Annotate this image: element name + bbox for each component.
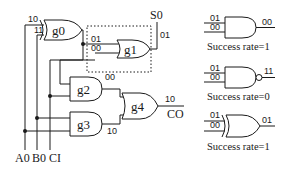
inversion-bubble [256, 75, 262, 81]
g0-input-a-value: 10 [28, 14, 38, 24]
gate-label-g3: g3 [77, 117, 90, 132]
output-s0-label: S0 [150, 8, 163, 22]
candidate-xor: 01 00 01 Success rate=1 [204, 110, 275, 152]
g0-input-b-value: 11 [34, 25, 43, 35]
g3-output-value: 10 [107, 126, 117, 136]
gate-g3: g3 [70, 112, 102, 136]
g2-output-value: 00 [105, 72, 115, 82]
gate-label-g0: g0 [52, 23, 65, 38]
input-ci-label: CI [49, 151, 61, 165]
junction-dot [23, 129, 27, 133]
wire-g2-to-g4 [102, 89, 124, 97]
wire-g3-to-g4 [102, 115, 124, 124]
candidate-3-output: 01 [262, 115, 272, 125]
candidate-2-caption: Success rate=0 [207, 91, 270, 102]
circuit-diagram: g0 10 11 g1 01 00 S0 01 g2 00 g3 10 [0, 0, 286, 173]
candidate-2-output: 11 [264, 66, 273, 76]
junction-dot [48, 94, 52, 98]
gate-label-g1: g1 [124, 42, 137, 57]
input-b0-label: B0 [32, 151, 46, 165]
output-co-label: CO [167, 107, 184, 121]
candidate-1-caption: Success rate=1 [207, 41, 270, 52]
gate-g0: g0 [40, 20, 82, 40]
junction-dot [81, 42, 85, 46]
candidate-3-input-a: 01 [210, 110, 220, 120]
candidate-2-input-b: 00 [210, 72, 220, 82]
gate-label-g2: g2 [77, 82, 90, 97]
candidate-3-caption: Success rate=1 [207, 141, 270, 152]
co-value: 10 [165, 94, 175, 104]
junction-dot [35, 116, 39, 120]
gate-g4: g4 [122, 93, 158, 119]
candidate-and: 01 00 00 Success rate=1 [204, 13, 275, 52]
candidate-3-input-b: 00 [210, 120, 220, 130]
gate-g2: g2 [70, 77, 102, 101]
gate-label-g4: g4 [131, 99, 145, 114]
gate-g1: g1 [117, 40, 150, 58]
candidate-nand: 01 00 11 Success rate=0 [204, 63, 275, 102]
s0-value: 01 [160, 30, 170, 40]
g1-input-b-value: 00 [91, 43, 101, 53]
candidate-1-output: 00 [262, 17, 272, 27]
candidate-1-input-b: 00 [210, 22, 220, 32]
input-a0-label: A0 [15, 151, 30, 165]
